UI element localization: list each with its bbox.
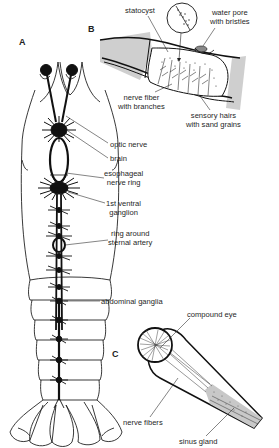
leader-lines-a	[64, 116, 108, 301]
label-ring-around-sternal-artery: ring around sternal artery	[108, 229, 152, 247]
label-brain: brain	[110, 154, 127, 163]
label-sinus-gland: sinus gland	[179, 437, 217, 446]
diagram-artwork	[0, 0, 279, 448]
label-nerve-fibers: nerve fibers	[123, 418, 163, 427]
label-statocyst: statocyst	[125, 6, 155, 15]
label-water-pore: water pore with bristles	[210, 8, 250, 26]
panel-label-c: C	[112, 349, 119, 359]
label-esophageal-nerve-ring: esophageal nerve ring	[104, 169, 143, 187]
eyestalk-drawing	[138, 328, 262, 428]
label-1st-ventral-ganglion: 1st ventral ganglion	[106, 199, 141, 217]
label-compound-eye: compound eye	[187, 310, 237, 319]
label-sensory-hairs: sensory hairs with sand grains	[186, 111, 241, 129]
nervous-system	[38, 65, 80, 409]
shrimp-body	[10, 62, 122, 447]
panel-label-b: B	[88, 24, 95, 34]
panel-label-a: A	[19, 37, 26, 47]
label-optic-nerve: optic nerve	[110, 140, 147, 149]
label-nerve-fiber-branches: nerve fiber with branches	[118, 93, 165, 111]
label-abdominal-ganglia: abdominal ganglia	[101, 297, 163, 306]
